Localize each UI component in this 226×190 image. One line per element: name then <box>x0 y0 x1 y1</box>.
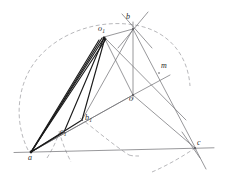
segment-bc-extension <box>195 148 206 169</box>
thin-line-layer <box>14 12 214 169</box>
arc-through-b1 <box>80 118 129 155</box>
arc-layer <box>19 24 195 172</box>
vertex-c <box>194 147 196 149</box>
heavy-line-layer <box>31 38 106 152</box>
point-label-m-text: m <box>161 61 167 70</box>
segment-o1-o <box>104 37 133 95</box>
segment-o1-c1 <box>64 38 104 132</box>
point-label-c-text: c <box>197 138 201 147</box>
point-label-c1: c1 <box>60 128 66 136</box>
vertex-m <box>158 72 160 74</box>
segment-b-b1 <box>82 29 133 120</box>
figure-canvas <box>0 0 226 190</box>
arc-through-c <box>152 148 195 172</box>
vertex-o1 <box>103 37 106 40</box>
point-label-c1-sub: 1 <box>64 131 67 137</box>
vertex-layer <box>30 28 196 153</box>
segment-a-b1 <box>31 95 133 152</box>
vertex-b <box>132 28 134 30</box>
segment-o1-b1 <box>82 38 105 120</box>
point-label-m: m <box>161 62 167 70</box>
segment-a-c <box>14 148 214 153</box>
point-label-b: b <box>126 13 130 21</box>
segment-b1-a <box>31 120 82 152</box>
point-label-b1: b1 <box>85 114 92 122</box>
point-label-c: c <box>197 139 201 147</box>
point-label-a: a <box>28 154 32 162</box>
point-label-o: o <box>129 95 133 103</box>
arc-b1-tail <box>129 155 139 156</box>
point-label-o1: o1 <box>98 25 105 33</box>
point-label-b-text: b <box>126 12 130 21</box>
vertex-b1 <box>81 119 83 121</box>
segment-b-c <box>133 29 196 149</box>
geometry-figure: o1 b m o b1 c1 a c <box>0 0 226 190</box>
point-label-a-text: a <box>28 153 32 162</box>
point-label-b1-sub: 1 <box>89 117 92 123</box>
segment-o1-m <box>104 37 186 120</box>
point-label-o1-sub: 1 <box>102 28 105 34</box>
point-label-o-text: o <box>129 94 133 103</box>
segment-o-c <box>133 95 195 148</box>
